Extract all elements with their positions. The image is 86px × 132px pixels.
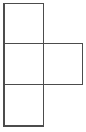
diagram-canvas (0, 0, 86, 132)
square-net-figure (0, 0, 86, 132)
